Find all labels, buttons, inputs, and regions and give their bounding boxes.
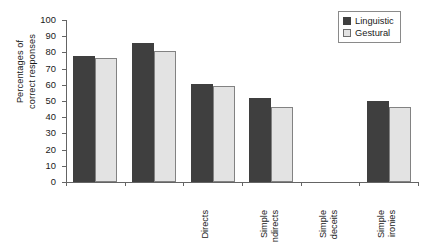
bar-chart: Percentages of correct responses 0102030… — [0, 0, 426, 242]
x-axis-label: Directs — [200, 210, 211, 242]
bar-linguistic — [367, 101, 389, 182]
bar-linguistic — [191, 84, 213, 182]
bar-linguistic — [249, 98, 271, 182]
bar-group — [125, 20, 184, 182]
y-tick-label: 0 — [30, 177, 56, 186]
x-axis-label: Simple ironies — [376, 210, 397, 242]
bar-group — [66, 20, 125, 182]
y-tick-label: 80 — [30, 47, 56, 56]
legend-swatch-linguistic — [343, 17, 351, 25]
legend-swatch-gestural — [343, 29, 351, 37]
legend-label-linguistic: Linguistic — [355, 16, 394, 27]
y-tick-label: 40 — [30, 112, 56, 121]
x-tick — [183, 182, 184, 186]
legend-item-linguistic: Linguistic — [343, 15, 394, 27]
x-axis-label: Simple deceits — [318, 210, 339, 242]
x-tick — [66, 182, 67, 186]
bar-group — [183, 20, 242, 182]
x-tick — [125, 182, 126, 186]
legend-item-gestural: Gestural — [343, 27, 394, 39]
y-tick-label: 60 — [30, 80, 56, 89]
x-tick — [301, 182, 302, 186]
x-tick — [359, 182, 360, 186]
bar-gestural — [389, 107, 411, 182]
bar-gestural — [213, 86, 235, 182]
bar-linguistic — [73, 56, 95, 182]
x-tick — [242, 182, 243, 186]
x-axis-label: Simple indirects — [259, 210, 280, 242]
bar-group — [359, 20, 418, 182]
y-tick-label: 20 — [30, 145, 56, 154]
plot-area: 0102030405060708090100 DirectsSimple ind… — [66, 20, 418, 182]
bar-gestural — [154, 51, 176, 182]
legend-label-gestural: Gestural — [355, 28, 390, 39]
y-tick-label: 50 — [30, 96, 56, 105]
y-tick-label: 90 — [30, 31, 56, 40]
bar-group — [301, 20, 360, 182]
legend: Linguistic Gestural — [338, 11, 401, 43]
y-tick-label: 100 — [30, 15, 56, 24]
x-tick — [418, 182, 419, 186]
y-tick-label: 10 — [30, 161, 56, 170]
bar-gestural — [271, 107, 293, 182]
bar-group — [242, 20, 301, 182]
bar-gestural — [95, 58, 117, 182]
bar-linguistic — [132, 43, 154, 182]
y-tick-label: 30 — [30, 128, 56, 137]
y-tick-label: 70 — [30, 64, 56, 73]
